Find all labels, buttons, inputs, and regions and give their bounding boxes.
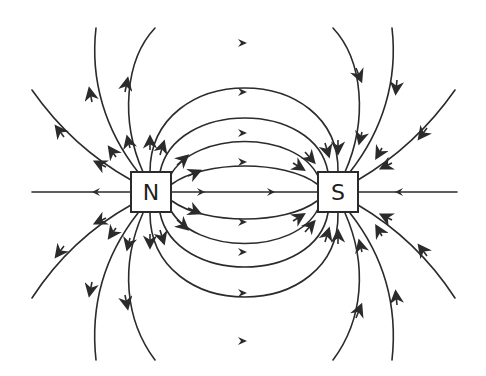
field-line-n-outer-6: [129, 213, 155, 360]
field-line-s-outer-4: [358, 205, 455, 298]
field-line-n-outer-2: [95, 28, 138, 172]
field-lines: [0, 0, 486, 376]
field-line-top-3: [160, 118, 328, 172]
south-pole-label: S: [331, 180, 345, 205]
magnetic-field-diagram: N S: [0, 0, 486, 376]
field-line-s-outer-6: [333, 213, 359, 360]
field-line-top-1: [172, 166, 317, 184]
field-line-s-outer-2: [350, 28, 393, 172]
field-line-n-outer-5: [95, 213, 138, 360]
field-line-top-4: [150, 88, 338, 172]
field-line-n-outer-3: [129, 28, 155, 172]
field-line-s-outer-5: [350, 213, 393, 360]
south-pole: S: [317, 171, 359, 213]
field-line-n-outer-1: [32, 90, 131, 180]
field-line-n-outer-4: [32, 205, 131, 298]
field-line-top-2: [170, 142, 318, 177]
north-pole: N: [130, 171, 172, 213]
field-line-bottom-2: [170, 209, 318, 244]
north-pole-label: N: [143, 180, 159, 205]
field-line-s-outer-3: [333, 28, 359, 172]
